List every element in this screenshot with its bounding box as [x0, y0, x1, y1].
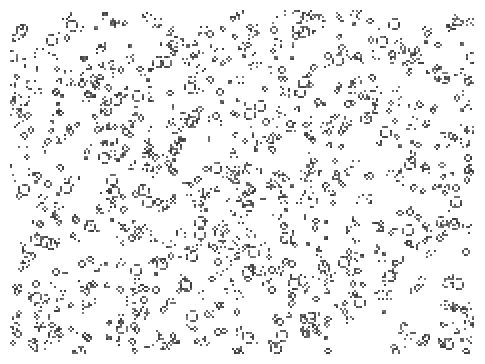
cellular-automaton-board[interactable]: [0, 0, 485, 364]
life-board-container: [0, 0, 485, 364]
